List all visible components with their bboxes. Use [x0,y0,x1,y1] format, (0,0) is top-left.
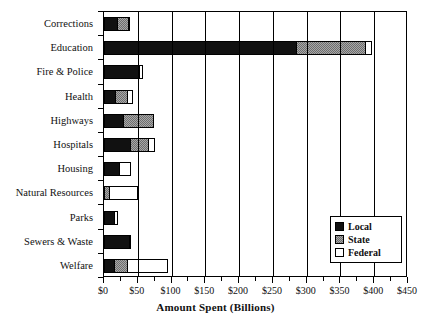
x-axis-tick-major [373,277,374,283]
gridline [239,12,240,276]
bar-segment-state [130,138,149,152]
x-axis-tick-minor [356,277,357,281]
x-axis-tick-minor [323,277,324,281]
x-axis-tick-minor [289,277,290,281]
y-axis-tick [98,180,103,181]
category-label: Welfare [60,259,93,270]
bar-row [104,65,406,79]
stacked-bar [104,162,131,176]
bar-segment-federal [127,259,168,273]
x-axis-title: Amount Spent (Billions) [0,301,431,313]
legend-swatch-federal-icon [335,248,344,257]
x-axis-tick-major [171,277,172,283]
legend-item-local: Local [335,220,397,233]
bar-segment-federal [109,186,138,200]
x-axis-tick-major [103,277,104,283]
x-axis-tick-major [137,277,138,283]
gridline [172,12,173,276]
x-axis-tick-major [339,277,340,283]
bar-segment-state [114,259,128,273]
legend-item-federal: Federal [335,246,397,259]
stacked-bar [104,65,143,79]
legend-label-local: Local [348,221,372,232]
x-axis-tick-minor [390,277,391,281]
stacked-bar [104,138,155,152]
bar-segment-local [104,114,124,128]
y-axis-tick [98,11,103,12]
x-axis-tick-minor [221,277,222,281]
x-axis-tick-label: $250 [262,285,282,296]
stacked-bar [104,17,130,31]
stacked-bar [104,259,168,273]
y-axis-tick [98,84,103,85]
bar-row [104,41,406,55]
x-axis-tick-minor [255,277,256,281]
legend-item-state: State [335,233,397,246]
legend: Local State Federal [330,216,402,263]
bar-segment-federal [119,162,131,176]
stacked-bar [104,41,372,55]
x-axis-tick-label: $400 [363,285,383,296]
category-label: Housing [57,163,93,174]
y-axis-tick [98,253,103,254]
category-label: Natural Resources [16,187,93,198]
category-label: Health [65,90,93,101]
y-axis-tick [98,35,103,36]
bar-segment-local [104,17,118,31]
category-label: Sewers & Waste [24,235,93,246]
x-axis-tick-major [306,277,307,283]
bar-segment-state [129,235,132,249]
bar-segment-federal [365,41,372,55]
x-axis-tick-label: $200 [228,285,248,296]
bar-segment-local [104,41,297,55]
stacked-bar [104,235,131,249]
y-axis-tick [98,108,103,109]
y-axis-tick [98,229,103,230]
x-axis-tick-label: $0 [98,285,108,296]
category-label: Hospitals [53,139,93,150]
bar-segment-federal [127,90,133,104]
bar-segment-federal [148,138,155,152]
bar-row [104,17,406,31]
y-axis-tick [98,156,103,157]
bar-segment-federal [128,17,130,31]
category-label: Corrections [44,18,93,29]
x-axis-tick-minor [187,277,188,281]
x-axis-tick-label: $450 [397,285,417,296]
bar-segment-federal [114,211,117,225]
bar-segment-local [104,138,131,152]
stacked-bar [104,114,154,128]
bar-row [104,90,406,104]
stacked-bar-chart: CorrectionsEducationFire & PoliceHealthH… [0,0,431,330]
category-label: Education [50,42,93,53]
x-axis-tick-major [407,277,408,283]
gridline [273,12,274,276]
x-axis-tick-major [272,277,273,283]
stacked-bar [104,211,118,225]
stacked-bar [104,186,138,200]
legend-label-federal: Federal [348,247,381,258]
x-axis-tick-label: $350 [329,285,349,296]
category-label: Highways [50,114,93,125]
bar-row [104,162,406,176]
gridline [205,12,206,276]
x-axis-tick-minor [120,277,121,281]
x-axis-tick-label: $150 [194,285,214,296]
x-axis-tick-label: $100 [161,285,181,296]
category-label: Fire & Police [36,66,93,77]
gridline [138,12,139,276]
y-axis-tick [98,59,103,60]
bar-segment-local [104,65,139,79]
x-axis-tick-minor [154,277,155,281]
x-axis-tick-label: $300 [296,285,316,296]
bar-row [104,186,406,200]
legend-swatch-state-icon [335,235,344,244]
category-label: Parks [70,211,93,222]
gridline [307,12,308,276]
x-axis-tick-label: $50 [129,285,144,296]
x-axis-tick-major [204,277,205,283]
bar-row [104,138,406,152]
y-axis-tick [98,132,103,133]
bar-row [104,114,406,128]
bar-segment-federal [139,65,142,79]
